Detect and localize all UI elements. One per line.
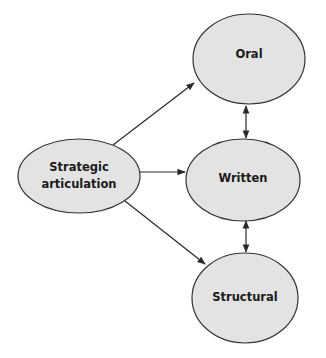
node-label-line2: articulation [41,177,116,191]
node-structural: Structural [192,253,298,343]
node-written: Written [186,139,300,221]
edge-strategic-to-structural [125,201,205,264]
node-label: Written [218,171,267,185]
node-strategic-articulation: Strategic articulation [18,139,140,213]
edge-strategic-to-oral [113,83,194,145]
node-label: Structural [212,290,278,304]
node-oral: Oral [193,14,305,104]
node-label-line1: Strategic [49,160,109,174]
node-label: Oral [235,47,262,61]
diagram-canvas: Strategic articulation Oral Written Stru… [0,0,326,358]
